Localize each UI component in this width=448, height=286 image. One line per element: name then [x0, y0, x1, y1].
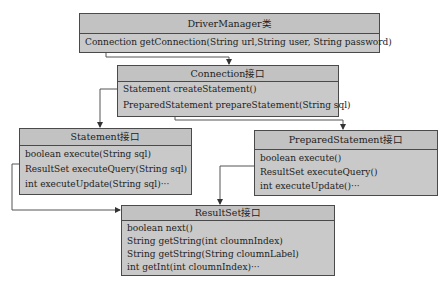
method-get-connection: Connection getConnection(String url,Stri… — [85, 36, 379, 49]
method-execute: boolean execute(String sql) — [25, 147, 191, 162]
driver-manager-class-box: DriverManager类 Connection getConnection(… — [79, 13, 380, 53]
method-execute-query: ResultSet executeQuery(String sql) — [25, 162, 191, 177]
method-execute-update: int executeUpdate(String sql)··· — [25, 177, 191, 192]
result-set-interface-box: ResultSet接口 boolean next() String getStr… — [121, 205, 335, 276]
prepared-statement-interface-box: PreparedStatement接口 boolean execute() Re… — [254, 130, 438, 196]
method-next: boolean next() — [127, 222, 334, 235]
method-execute-update: int executeUpdate()··· — [260, 179, 437, 193]
method-create-statement: Statement createStatement() — [123, 83, 338, 96]
box-title: DriverManager类 — [80, 14, 379, 34]
edge-driver-to-connection — [106, 52, 229, 64]
box-title: Statement接口 — [20, 129, 191, 146]
method-get-int: int getInt(int cloumnIndex)··· — [127, 261, 334, 274]
edge-connection-to-prepared — [175, 116, 343, 129]
statement-interface-box: Statement接口 boolean execute(String sql) … — [19, 128, 192, 195]
edge-prepared-to-resultset — [220, 166, 254, 204]
method-execute-query: ResultSet executeQuery() — [260, 165, 437, 179]
box-title: PreparedStatement接口 — [255, 131, 437, 150]
method-prepare-statement: PreparedStatement prepareStatement(Strin… — [123, 99, 338, 112]
method-get-string-label: String getString(String cloumnLabel) — [127, 248, 334, 261]
method-execute: boolean execute() — [260, 151, 437, 165]
box-title: Connection接口 — [118, 66, 338, 82]
edge-connection-to-statement — [100, 89, 117, 127]
method-get-string-index: String getString(int cloumnIndex) — [127, 235, 334, 248]
box-title: ResultSet接口 — [122, 206, 334, 221]
connection-interface-box: Connection接口 Statement createStatement()… — [117, 65, 339, 117]
